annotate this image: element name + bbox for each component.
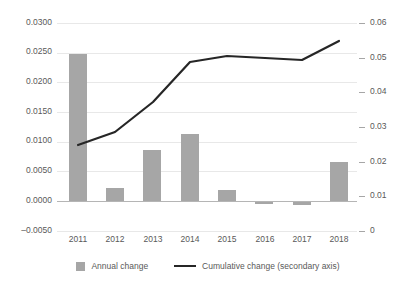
chart-legend: Annual change Cumulative change (seconda… [0, 258, 416, 274]
secondary-y-tick-label: 0 [370, 226, 375, 235]
x-tick-label-2014: 2014 [170, 234, 210, 244]
primary-y-axis: 0.0300 0.0250 0.0200 0.0150 0.0100 0.005… [0, 23, 52, 231]
primary-y-tick-label: 0.0000 [0, 196, 52, 205]
legend-item-annual-change: Annual change [76, 261, 148, 271]
chart-container: 0.0300 0.0250 0.0200 0.0150 0.0100 0.005… [0, 0, 416, 284]
x-tick-label-2011: 2011 [58, 234, 98, 244]
x-tick-label-2015: 2015 [207, 234, 247, 244]
legend-label-cumulative-change: Cumulative change (secondary axis) [202, 261, 339, 271]
x-tick-label-2017: 2017 [282, 234, 322, 244]
legend-label-annual-change: Annual change [91, 261, 148, 271]
secondary-y-tick-label: 0.03 [370, 122, 387, 131]
primary-y-tick-label: 0.0250 [0, 47, 52, 56]
x-tick-label-2012: 2012 [95, 234, 135, 244]
line-swatch-icon [174, 265, 196, 267]
plot-area [57, 23, 357, 231]
primary-y-tick-label: 0.0050 [0, 166, 52, 175]
cumulative-change-line [57, 23, 357, 231]
x-axis: 2011 2012 2013 2014 2015 2016 2017 2018 [57, 234, 357, 248]
secondary-y-tick-label: 0.04 [370, 87, 387, 96]
secondary-y-tick-label: 0.01 [370, 191, 387, 200]
secondary-y-tick-label: 0.02 [370, 157, 387, 166]
x-tick-label-2018: 2018 [319, 234, 359, 244]
primary-y-tick-label: 0.0100 [0, 136, 52, 145]
primary-y-tick-label: –0.0050 [0, 226, 52, 235]
x-tick-label-2016: 2016 [245, 234, 285, 244]
secondary-y-tick-label: 0.05 [370, 53, 387, 62]
x-tick-label-2013: 2013 [133, 234, 173, 244]
secondary-y-tick-label: 0.06 [370, 18, 387, 27]
primary-y-tick-label: 0.0200 [0, 77, 52, 86]
gridline [57, 231, 357, 232]
primary-y-tick-label: 0.0300 [0, 18, 52, 27]
primary-y-tick-label: 0.0150 [0, 107, 52, 116]
secondary-y-axis: 0.06 0.05 0.04 0.03 0.02 0.01 0 [357, 23, 416, 231]
legend-item-cumulative-change: Cumulative change (secondary axis) [174, 261, 339, 271]
bar-swatch-icon [76, 262, 85, 271]
